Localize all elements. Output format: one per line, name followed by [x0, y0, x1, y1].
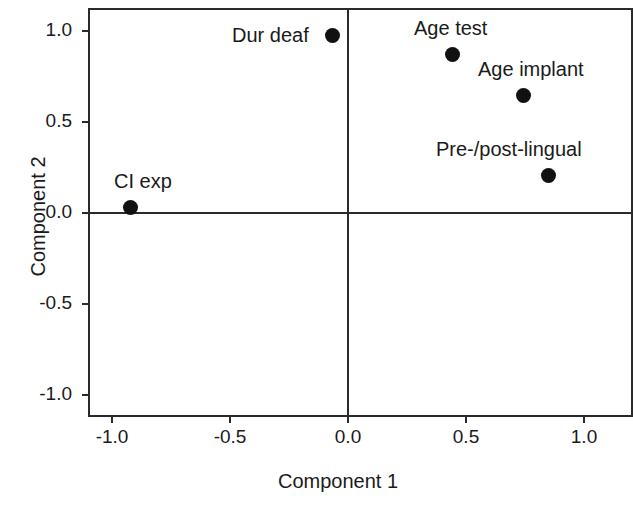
x-axis-tick-label: 0.5: [426, 426, 506, 448]
x-axis-tick: [111, 415, 113, 423]
data-point-label-dur-deaf: Dur deaf: [232, 24, 309, 47]
data-point-label-pre-post-lingual: Pre-/post-lingual: [436, 138, 582, 161]
y-axis-tick-label: 1.0: [0, 19, 72, 41]
y-axis-tick: [82, 212, 90, 214]
x-axis-tick-label: -0.5: [190, 426, 270, 448]
x-axis-tick: [347, 415, 349, 423]
x-axis-tick-label: 0.0: [308, 426, 388, 448]
data-point-label-age-test: Age test: [414, 17, 487, 40]
data-point-marker: [516, 88, 531, 103]
vertical-zero-reference-line: [347, 8, 349, 417]
y-axis-title: Component 2: [27, 97, 50, 337]
y-axis-tick: [82, 121, 90, 123]
horizontal-zero-reference-line: [88, 212, 633, 214]
y-axis-tick: [82, 30, 90, 32]
data-point-label-age-implant: Age implant: [478, 58, 584, 81]
x-axis-tick: [465, 415, 467, 423]
data-point-marker: [541, 168, 556, 183]
data-point-marker: [325, 28, 340, 43]
x-axis-title: Component 1: [88, 470, 588, 493]
x-axis-tick-label: -1.0: [72, 426, 152, 448]
data-point-label-ci-exp: CI exp: [114, 170, 172, 193]
x-axis-tick-label: 1.0: [544, 426, 624, 448]
y-axis-tick: [82, 394, 90, 396]
x-axis-tick: [583, 415, 585, 423]
x-axis-tick: [229, 415, 231, 423]
data-point-marker: [123, 200, 138, 215]
y-axis-tick-label: -1.0: [0, 383, 72, 405]
data-point-marker: [445, 47, 460, 62]
y-axis-tick: [82, 303, 90, 305]
